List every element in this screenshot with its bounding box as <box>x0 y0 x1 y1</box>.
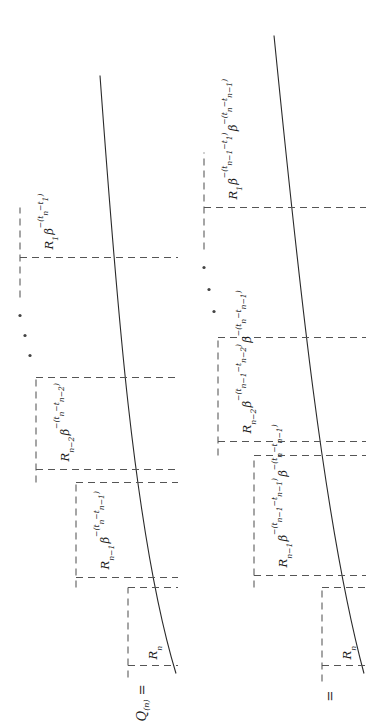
row1-term-2: Rn−1 β−(tn−tn−1) <box>100 491 112 569</box>
row2-term-2: Rn−1 β−(tn−1−tn−1) β−(tn−tn−1) <box>278 424 290 567</box>
equation-row-1: Q(n) = <box>8 0 178 727</box>
row2-term-3: Rn−2 β−(tn−1−tn−2) β−(tn−tn−1) <box>242 290 254 433</box>
row2-term-4: R1 β−(tn−1−t1) β−(tn−tn−1) <box>228 78 240 199</box>
math-figure: Q(n) = <box>0 0 386 727</box>
row1-term-3: Rn−2 β−(tn−tn−2) <box>60 383 72 461</box>
figure-page: Q(n) = <box>0 0 386 727</box>
row1-term-4: R1 β−(tn−t1) <box>44 193 56 249</box>
row1-term-1: Rn <box>148 645 160 659</box>
equation-row-2: = Rn <box>196 0 366 727</box>
row1-staircase <box>8 0 178 727</box>
row2-term-1: Rn <box>342 645 354 659</box>
